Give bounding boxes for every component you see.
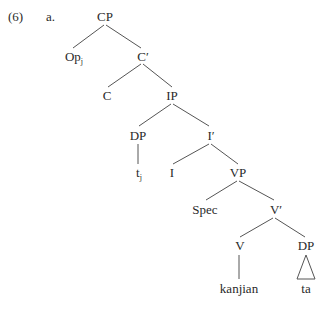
edge-vbar-v <box>240 218 273 237</box>
edge-cp-cbar <box>106 25 141 48</box>
node-trace: tj <box>136 166 142 180</box>
edge-cp-op <box>73 25 104 48</box>
edge-vbar-dp <box>275 218 305 237</box>
node-dp-subject: DP <box>130 129 147 143</box>
node-c-bar: C′ <box>137 50 149 64</box>
example-number: (6) <box>8 10 23 24</box>
node-op-text: Op <box>65 49 81 64</box>
edge-cbar-c <box>108 64 141 87</box>
node-ip: IP <box>166 89 178 103</box>
edge-ip-dp <box>139 104 171 126</box>
node-trace-index: j <box>140 173 142 182</box>
dp-triangle <box>297 255 315 279</box>
tree-edges <box>0 0 331 309</box>
node-op: Opj <box>65 50 83 64</box>
node-i-bar: I′ <box>207 129 214 143</box>
node-cp: CP <box>97 10 113 24</box>
edge-vp-vbar <box>239 181 274 200</box>
node-v-bar: V′ <box>270 203 282 217</box>
node-spec: Spec <box>192 203 217 217</box>
node-i: I <box>170 166 174 180</box>
leaf-ta: ta <box>301 282 310 296</box>
leaf-kanjian: kanjian <box>220 282 258 296</box>
edge-ibar-i <box>173 144 209 164</box>
node-op-index: j <box>81 57 83 66</box>
node-c: C <box>103 89 112 103</box>
edge-ip-ibar <box>173 104 209 126</box>
edge-ibar-vp <box>211 144 238 164</box>
example-letter: a. <box>46 10 55 24</box>
node-v: V <box>235 239 244 253</box>
edge-vp-spec <box>206 181 237 200</box>
edge-cbar-ip <box>143 64 172 87</box>
node-dp-object: DP <box>298 239 315 253</box>
node-vp: VP <box>230 166 247 180</box>
